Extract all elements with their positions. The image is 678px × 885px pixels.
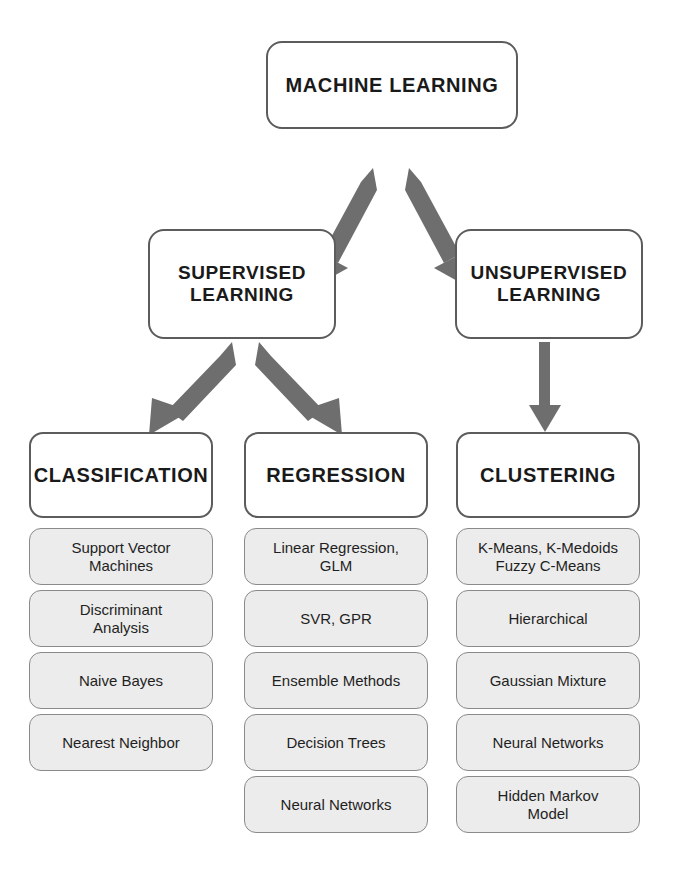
leaf-item-label: Discriminant Analysis — [74, 601, 169, 636]
node-classification[interactable]: CLASSIFICATION — [29, 432, 213, 518]
leaf-item-label: Neural Networks — [275, 796, 398, 814]
leaf-item-label: Ensemble Methods — [266, 672, 406, 690]
leaf-item-label: Hierarchical — [502, 610, 593, 628]
leaf-item-label: K-Means, K-Medoids Fuzzy C-Means — [472, 539, 624, 574]
node-machine-learning[interactable]: MACHINE LEARNING — [266, 41, 518, 129]
leaf-item-label: Hidden Markov Model — [492, 787, 605, 822]
leaf-item-label: Support Vector Machines — [65, 539, 176, 574]
arrow-supervised-to-regression — [255, 342, 342, 435]
leaf-item[interactable]: Linear Regression, GLM — [244, 528, 428, 585]
leaf-item[interactable]: Decision Trees — [244, 714, 428, 771]
leaf-item[interactable]: Nearest Neighbor — [29, 714, 213, 771]
node-unsupervised-learning[interactable]: UNSUPERVISED LEARNING — [455, 229, 643, 339]
ml-taxonomy-diagram: MACHINE LEARNING SUPERVISED LEARNING UNS… — [0, 0, 678, 885]
leaf-item[interactable]: Gaussian Mixture — [456, 652, 640, 709]
node-clustering[interactable]: CLUSTERING — [456, 432, 640, 518]
leaf-item[interactable]: K-Means, K-Medoids Fuzzy C-Means — [456, 528, 640, 585]
node-machine-learning-label: MACHINE LEARNING — [280, 74, 505, 97]
node-clustering-label: CLUSTERING — [474, 464, 622, 487]
leaf-item[interactable]: Discriminant Analysis — [29, 590, 213, 647]
leaf-item-label: Gaussian Mixture — [484, 672, 613, 690]
leaf-item-label: Neural Networks — [487, 734, 610, 752]
leaf-item[interactable]: Ensemble Methods — [244, 652, 428, 709]
leaf-item[interactable]: Naive Bayes — [29, 652, 213, 709]
leaf-item[interactable]: Support Vector Machines — [29, 528, 213, 585]
leaf-item-label: Linear Regression, GLM — [267, 539, 405, 574]
leaf-item[interactable]: SVR, GPR — [244, 590, 428, 647]
node-unsupervised-learning-label: UNSUPERVISED LEARNING — [465, 262, 634, 306]
leaf-item-label: Nearest Neighbor — [56, 734, 186, 752]
node-supervised-learning-label: SUPERVISED LEARNING — [172, 262, 312, 306]
leaf-item[interactable]: Neural Networks — [456, 714, 640, 771]
leaf-item-label: Decision Trees — [280, 734, 391, 752]
node-supervised-learning[interactable]: SUPERVISED LEARNING — [148, 229, 336, 339]
leaf-item[interactable]: Neural Networks — [244, 776, 428, 833]
node-classification-label: CLASSIFICATION — [28, 464, 215, 487]
node-regression-label: REGRESSION — [260, 464, 411, 487]
arrow-unsupervised-to-clustering — [529, 342, 561, 432]
leaf-item-label: SVR, GPR — [294, 610, 378, 628]
leaf-item[interactable]: Hierarchical — [456, 590, 640, 647]
leaf-item-label: Naive Bayes — [73, 672, 169, 690]
node-regression[interactable]: REGRESSION — [244, 432, 428, 518]
leaf-item[interactable]: Hidden Markov Model — [456, 776, 640, 833]
arrow-supervised-to-classification — [149, 342, 236, 435]
